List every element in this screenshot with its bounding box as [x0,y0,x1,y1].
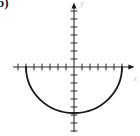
semicircle-graph-figure [0,0,140,136]
x-axis-label: x [133,74,137,83]
y-axis-arrowhead-icon [71,3,76,9]
x-axis-arrowhead-icon [128,64,134,69]
y-axis-label: y [80,0,84,8]
